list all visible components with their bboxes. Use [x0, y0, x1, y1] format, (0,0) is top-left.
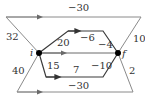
- node-i: [36, 50, 42, 56]
- label-upper-flat: −6: [80, 32, 95, 43]
- label-top-left: 32: [6, 31, 19, 42]
- label-lower-drop: 15: [47, 60, 60, 71]
- label-bottom-right: 2: [129, 65, 135, 76]
- label-upper-fall: −4: [98, 39, 113, 50]
- node-f: [115, 50, 121, 56]
- label-bottom: −30: [68, 80, 89, 91]
- label-lower-rise: −10: [91, 60, 112, 71]
- label-bottom-left: 40: [12, 65, 25, 76]
- label-lower-flat: 7: [73, 64, 79, 75]
- path-diagram: i f −30 32 10 20 −6 −4 15 7 −10 40 2 −30: [0, 0, 145, 98]
- label-top: −30: [68, 2, 89, 13]
- node-f-label: f: [121, 48, 128, 59]
- label-top-right: 10: [133, 33, 145, 44]
- outer-top-path: [6, 17, 141, 53]
- node-i-label: i: [30, 47, 33, 58]
- label-upper-rise: 20: [57, 37, 70, 48]
